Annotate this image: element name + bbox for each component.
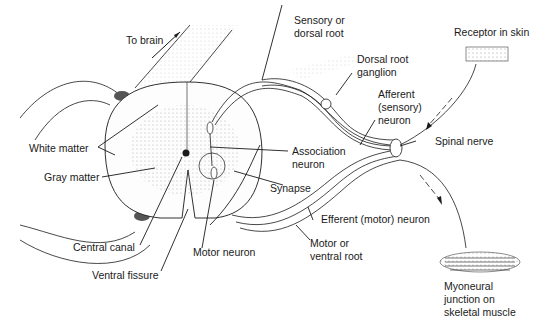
- ganglion-cell: [321, 99, 331, 109]
- label-association-neuron-1: Association: [292, 145, 346, 157]
- label-synapse: Synapse: [270, 182, 311, 194]
- spinal-cord-diagram: [0, 0, 552, 328]
- label-gray-matter: Gray matter: [44, 171, 99, 183]
- association-neuron-body: [207, 122, 213, 134]
- receptor-in-skin: [400, 47, 508, 145]
- spinal-nerve-end: [390, 139, 402, 157]
- label-sensory-root-2: dorsal root: [294, 27, 344, 39]
- label-motor-root-2: ventral root: [310, 250, 363, 262]
- label-ventral-fissure: Ventral fissure: [92, 269, 159, 281]
- label-afferent-2: (sensory): [378, 101, 422, 113]
- central-canal-dot: [183, 150, 190, 157]
- label-sensory-root-1: Sensory or: [294, 14, 345, 26]
- label-central-canal: Central canal: [73, 241, 135, 253]
- label-myoneural-1: Myoneural: [444, 280, 493, 292]
- label-afferent-1: Afferent: [378, 88, 415, 100]
- label-efferent-neuron: Efferent (motor) neuron: [321, 213, 430, 225]
- motor-neuron-body: [211, 167, 217, 179]
- skeletal-muscle: [440, 252, 520, 272]
- spinal-cord-section: [105, 82, 262, 225]
- label-dorsal-root-ganglion-2: ganglion: [357, 66, 397, 78]
- label-myoneural-2: junction on: [444, 293, 495, 305]
- label-to-brain: To brain: [126, 34, 163, 46]
- label-myoneural-3: skeletal muscle: [444, 306, 516, 318]
- label-dorsal-root-ganglion-1: Dorsal root: [357, 53, 408, 65]
- label-motor-root-1: Motor or: [310, 237, 349, 249]
- label-spinal-nerve: Spinal nerve: [435, 135, 493, 147]
- label-receptor-in-skin: Receptor in skin: [454, 26, 529, 38]
- label-motor-neuron: Motor neuron: [193, 246, 255, 258]
- label-afferent-3: neuron: [378, 114, 411, 126]
- label-association-neuron-2: neuron: [292, 158, 325, 170]
- label-white-matter: White matter: [29, 142, 89, 154]
